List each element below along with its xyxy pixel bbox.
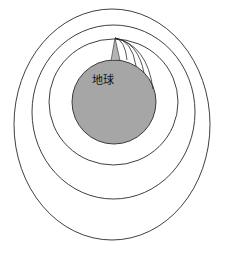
earth-label: 地球 bbox=[92, 75, 114, 86]
diagram-canvas bbox=[0, 0, 225, 260]
mountain-icon bbox=[111, 38, 120, 61]
earth-circle bbox=[72, 60, 156, 144]
newton-cannon-diagram: 地球 bbox=[0, 0, 225, 260]
